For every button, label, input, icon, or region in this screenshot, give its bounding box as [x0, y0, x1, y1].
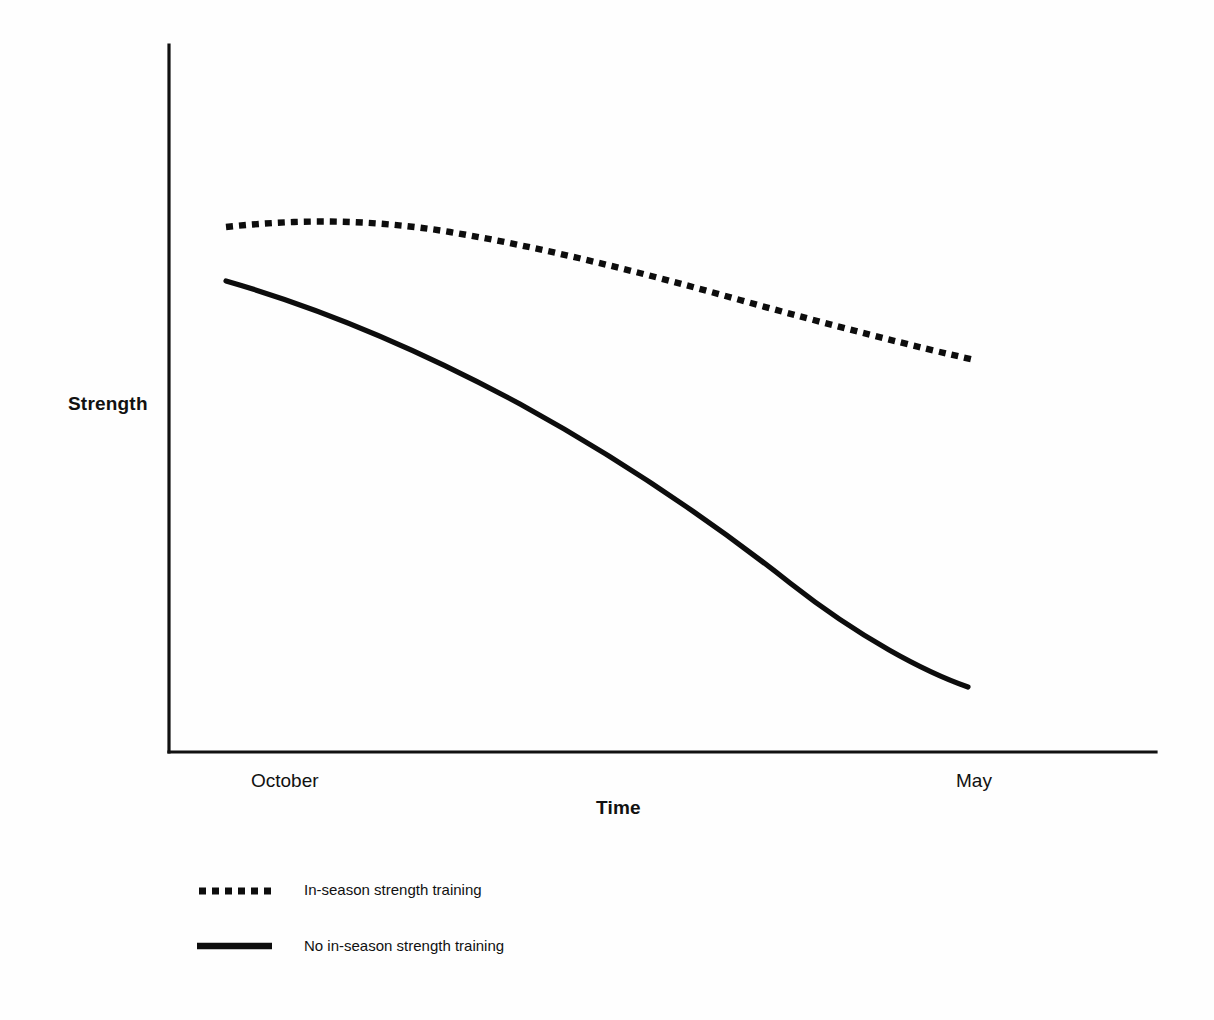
x-axis-title: Time [596, 798, 641, 817]
y-axis-title: Strength [68, 394, 148, 413]
x-axis-tick-label-october: October [251, 771, 319, 790]
legend-item-label-in-season-strength-training: In-season strength training [304, 882, 482, 897]
line-chart-canvas [0, 0, 1214, 1020]
series-line-in-season-strength-training [226, 222, 975, 360]
x-axis-tick-label-may: May [956, 771, 992, 790]
legend-item-label-no-in-season-strength-training: No in-season strength training [304, 938, 504, 953]
series-line-no-in-season-strength-training [226, 281, 968, 687]
chart-page: Strength Time October May In-season stre… [0, 0, 1214, 1020]
